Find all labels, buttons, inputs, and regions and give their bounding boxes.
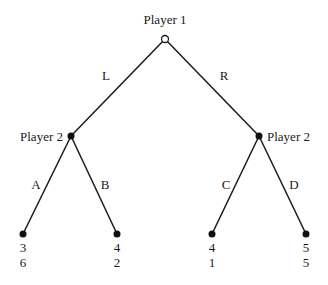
edge-label-A: A	[31, 177, 41, 192]
terminal-node-A	[20, 231, 27, 238]
payoff-C-player2: 1	[209, 255, 216, 270]
edge-R	[165, 39, 259, 136]
edge-A	[23, 136, 71, 234]
edge-label-B: B	[101, 177, 110, 192]
terminal-node-B	[114, 231, 121, 238]
decision-node-player2-right	[256, 133, 263, 140]
player2-right-label: Player 2	[267, 129, 310, 144]
payoff-A-player2: 6	[20, 255, 27, 270]
player1-label: Player 1	[144, 12, 187, 27]
edge-label-D: D	[289, 177, 298, 192]
edge-C	[212, 136, 259, 234]
game-tree-diagram: Player 1 Player 2 Player 2 L R A B C D 3…	[0, 0, 328, 285]
payoff-A-player1: 3	[20, 240, 27, 255]
edge-D	[259, 136, 306, 234]
game-tree-svg: Player 1 Player 2 Player 2 L R A B C D 3…	[0, 0, 328, 285]
payoff-D-player1: 5	[303, 240, 310, 255]
edge-label-R: R	[220, 68, 229, 83]
terminal-node-C	[209, 231, 216, 238]
edge-B	[71, 136, 117, 234]
edge-label-C: C	[222, 177, 231, 192]
edge-label-L: L	[102, 68, 110, 83]
player2-left-label: Player 2	[20, 129, 63, 144]
payoff-D-player2: 5	[303, 255, 310, 270]
edge-L	[71, 39, 165, 136]
decision-node-player2-left	[68, 133, 75, 140]
payoff-C-player1: 4	[209, 240, 216, 255]
payoff-B-player1: 4	[114, 240, 121, 255]
terminal-node-D	[303, 231, 310, 238]
payoff-B-player2: 2	[114, 255, 121, 270]
root-node-player1	[162, 36, 169, 43]
